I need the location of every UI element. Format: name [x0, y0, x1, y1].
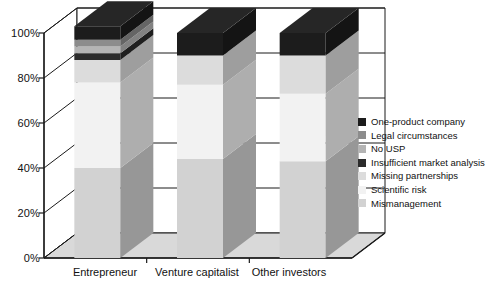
legend-swatch-icon	[358, 145, 366, 153]
bar-segment-front	[74, 47, 120, 54]
bar-column	[74, 1, 153, 258]
chart-side-wall	[44, 8, 77, 258]
bar-column	[280, 8, 359, 258]
legend-item: Insufficient market analysis	[358, 156, 494, 170]
bar-segment-front	[177, 56, 223, 85]
bar-segment-front	[177, 85, 223, 159]
legend-label: Mismanagement	[371, 199, 441, 209]
legend-label: One-product company	[371, 117, 465, 127]
bar-segment-front	[74, 168, 120, 258]
bar-segment-front	[280, 161, 326, 258]
legend: One-product companyLegal circumstancesNo…	[358, 115, 494, 210]
legend-swatch-icon	[358, 118, 366, 126]
legend-swatch-icon	[358, 172, 366, 180]
legend-item: Missing partnerships	[358, 169, 494, 183]
x-tick-label-other-investors: Other investors	[230, 266, 348, 278]
legend-label: Legal circumstances	[371, 131, 458, 141]
legend-swatch-icon	[358, 186, 366, 194]
legend-label: No USP	[371, 144, 405, 154]
legend-item: Legal circumstances	[358, 129, 494, 143]
legend-item: One-product company	[358, 115, 494, 129]
bar-column	[177, 8, 256, 258]
legend-swatch-icon	[358, 159, 366, 167]
bar-segment-front	[74, 26, 120, 40]
legend-item: No USP	[358, 142, 494, 156]
legend-swatch-icon	[358, 199, 366, 207]
chart-root: 100% 80% 60% 40% 20% 0% Entrepreneur Ven…	[0, 0, 496, 286]
bar-segment-front	[280, 94, 326, 162]
legend-label: Insufficient market analysis	[371, 158, 485, 168]
bar-segment-front	[280, 56, 326, 94]
legend-swatch-icon	[358, 131, 366, 139]
bar-segment-front	[74, 53, 120, 60]
legend-label: Scientific risk	[371, 185, 426, 195]
legend-item: Scientific risk	[358, 183, 494, 197]
bar-segment-front	[280, 33, 326, 56]
bar-segment-front	[74, 60, 120, 83]
legend-item: Mismanagement	[358, 197, 494, 211]
bar-segment-front	[74, 83, 120, 169]
bar-segment-front	[177, 33, 223, 56]
bar-segment-front	[177, 159, 223, 258]
bar-segment-front	[74, 40, 120, 47]
legend-label: Missing partnerships	[371, 171, 458, 181]
